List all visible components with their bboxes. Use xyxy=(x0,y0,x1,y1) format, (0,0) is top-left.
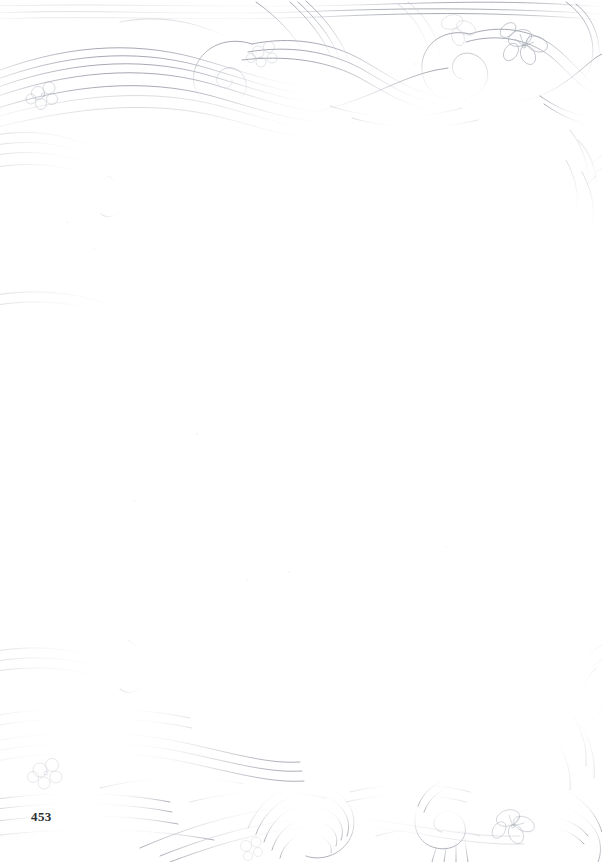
scan-speck xyxy=(66,221,68,223)
scan-speck xyxy=(414,63,416,65)
scanned-page: 453 xyxy=(0,0,602,862)
page-number: 453 xyxy=(31,810,52,823)
page-body-text xyxy=(72,120,530,760)
